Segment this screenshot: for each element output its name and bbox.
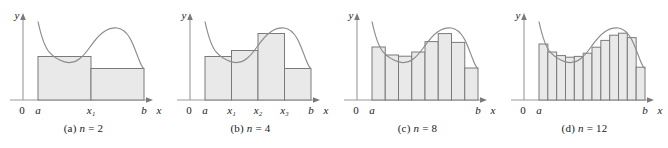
y-axis [20, 13, 26, 100]
rect-6 [583, 53, 592, 100]
panel-a: 0 a x₁ b x y (a) n = 2 [0, 0, 167, 148]
y-axis [521, 13, 527, 100]
panel-d-caption-eq: = 12 [587, 122, 608, 134]
panel-a-caption-eq: = 2 [88, 122, 103, 134]
panel-d: 0 a b x y (d) n = 12 [501, 0, 668, 148]
y-axis [354, 13, 360, 100]
riemann-rectangles [372, 34, 478, 100]
rect-3 [258, 34, 285, 101]
tick-label-a: a [35, 104, 41, 116]
y-axis-label: y [14, 9, 20, 21]
panel-a-caption-label: (a) [64, 122, 77, 134]
panel-d-caption: (d) n = 12 [501, 122, 668, 134]
y-axis [187, 13, 193, 100]
tick-label-x1: x₁ [226, 104, 236, 116]
rect-6 [438, 34, 451, 100]
x-axis-label: x [156, 104, 162, 116]
rect-10 [619, 33, 628, 100]
rect-3 [557, 56, 566, 100]
tick-label-b: b [141, 104, 147, 116]
rect-1 [38, 57, 91, 101]
rect-4 [285, 69, 312, 101]
x-axis-arrow [480, 97, 487, 103]
rect-5 [574, 56, 583, 100]
x-axis-label: x [323, 104, 329, 116]
tick-label-x3: x₃ [279, 104, 289, 116]
tick-label-b: b [642, 104, 648, 116]
riemann-rectangles [539, 33, 645, 100]
x-axis-label: x [657, 104, 663, 116]
y-axis-arrow [521, 13, 527, 20]
rect-5 [425, 42, 438, 100]
riemann-sum-figure: 0 a x₁ b x y (a) n = 2 [0, 0, 668, 148]
panel-b: 0 a x₁ x₂ x₃ b x y (b) n = 4 [167, 0, 334, 148]
rect-8 [465, 68, 478, 100]
panel-b-plot: 0 a x₁ x₂ x₃ b x y [167, 0, 334, 125]
riemann-rectangles [205, 34, 311, 101]
rect-9 [610, 35, 619, 100]
tick-label-a: a [369, 104, 375, 116]
origin-label: 0 [19, 104, 25, 116]
rect-4 [566, 57, 575, 100]
y-axis-label: y [515, 9, 521, 21]
panel-b-caption-label: (b) [230, 122, 243, 134]
origin-label: 0 [353, 104, 359, 116]
panel-c-caption-label: (c) [398, 122, 411, 134]
panel-a-caption: (a) n = 2 [0, 122, 167, 134]
panel-c: 0 a b x y (c) n = 8 [334, 0, 501, 148]
y-axis-arrow [354, 13, 360, 20]
riemann-rectangles [38, 57, 144, 101]
tick-label-b: b [308, 104, 314, 116]
x-axis-arrow [647, 97, 654, 103]
tick-label-x2: x₂ [253, 104, 263, 116]
rect-1 [205, 57, 232, 101]
origin-label: 0 [520, 104, 526, 116]
panel-d-plot: 0 a b x y [501, 0, 668, 125]
tick-label-a: a [536, 104, 542, 116]
panel-c-plot: 0 a b x y [334, 0, 501, 125]
panel-b-caption-eq: = 4 [255, 122, 270, 134]
panel-b-caption: (b) n = 4 [167, 122, 334, 134]
rect-2 [232, 51, 259, 101]
x-axis-label: x [490, 104, 496, 116]
panel-c-caption-eq: = 8 [422, 122, 437, 134]
rect-1 [372, 47, 385, 100]
rect-2 [548, 52, 557, 100]
y-axis-label: y [181, 9, 187, 21]
x-axis-arrow [313, 97, 320, 103]
panel-a-plot: 0 a x₁ b x y [0, 0, 167, 125]
tick-label-x1: x₁ [86, 104, 96, 116]
rect-8 [601, 40, 610, 100]
rect-7 [452, 42, 465, 100]
rect-1 [539, 44, 548, 100]
y-axis-label: y [348, 9, 354, 21]
origin-label: 0 [186, 104, 192, 116]
tick-label-b: b [475, 104, 481, 116]
y-axis-arrow [20, 13, 26, 20]
x-axis-arrow [146, 97, 153, 103]
panel-c-caption: (c) n = 8 [334, 122, 501, 134]
panel-d-caption-label: (d) [562, 122, 575, 134]
rect-2 [91, 69, 144, 101]
tick-label-a: a [202, 104, 208, 116]
y-axis-arrow [187, 13, 193, 20]
rect-7 [592, 47, 601, 100]
rect-12 [636, 67, 645, 100]
